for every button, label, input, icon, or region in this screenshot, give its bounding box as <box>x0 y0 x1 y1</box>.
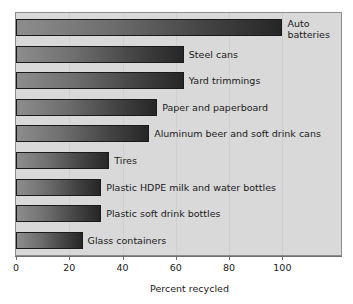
bar-label-line: batteries <box>287 29 330 40</box>
bar <box>16 205 101 222</box>
bar-label: Steel cans <box>189 49 238 60</box>
bar-label: Plastic soft drink bottles <box>106 208 220 219</box>
bar-row: Aluminum beer and soft drink cans <box>16 125 341 142</box>
x-tick-60 <box>176 256 177 260</box>
bar <box>16 19 282 36</box>
x-tick-label-60: 60 <box>170 262 182 273</box>
bar <box>16 46 184 63</box>
bar-row: Tires <box>16 152 341 169</box>
x-tick-label-20: 20 <box>63 262 75 273</box>
bar-label: Paper and paperboard <box>162 102 268 113</box>
x-tick-label-0: 0 <box>13 262 19 273</box>
bar-row: Autobatteries <box>16 19 341 36</box>
x-tick-80 <box>229 256 230 260</box>
bar <box>16 72 184 89</box>
bar-label: Yard trimmings <box>189 75 261 86</box>
plot-area: AutobatteriesSteel cansYard trimmingsPap… <box>15 12 342 256</box>
bar-label: Autobatteries <box>287 18 330 40</box>
bar-label: Plastic HDPE milk and water bottles <box>106 182 276 193</box>
x-axis-label-text: Percent recycled <box>150 283 229 294</box>
bar-row: Steel cans <box>16 46 341 63</box>
bar <box>16 152 109 169</box>
bar-row: Plastic soft drink bottles <box>16 205 341 222</box>
x-tick-label-100: 100 <box>273 262 291 273</box>
bar-chart-figure: AutobatteriesSteel cansYard trimmingsPap… <box>0 0 353 304</box>
x-axis-label: Percent recycled <box>0 283 353 294</box>
x-tick-0 <box>16 256 17 260</box>
x-tick-40 <box>123 256 124 260</box>
bar-row: Yard trimmings <box>16 72 341 89</box>
bar-row: Glass containers <box>16 232 341 249</box>
bar-row: Paper and paperboard <box>16 99 341 116</box>
bar-label-line: Auto <box>287 18 309 29</box>
bar-label: Tires <box>114 155 137 166</box>
x-tick-label-40: 40 <box>117 262 129 273</box>
bar <box>16 232 83 249</box>
x-tick-20 <box>69 256 70 260</box>
bar <box>16 125 149 142</box>
x-tick-100 <box>282 256 283 260</box>
bar <box>16 99 157 116</box>
bar-label: Aluminum beer and soft drink cans <box>154 128 321 139</box>
bar <box>16 179 101 196</box>
x-axis <box>15 256 342 257</box>
bar-label: Glass containers <box>88 235 167 246</box>
x-tick-label-80: 80 <box>223 262 235 273</box>
bar-row: Plastic HDPE milk and water bottles <box>16 179 341 196</box>
